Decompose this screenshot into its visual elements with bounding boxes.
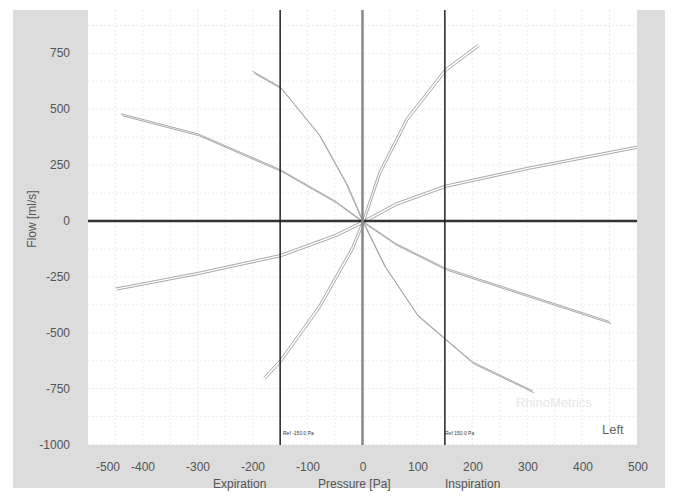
flow-curve [117,223,364,290]
flow-curve [121,114,363,221]
flow-curve [254,73,364,223]
y-axis-label: Flow [ml/s] [25,179,39,259]
x-tick: -200 [228,460,278,474]
y-tick: -750 [0,382,70,396]
x-tick: 100 [393,460,443,474]
y-tick: -1000 [0,438,70,452]
x-tick: 0 [338,460,388,474]
x-tick: -400 [118,460,168,474]
flow-curve [264,221,363,377]
curves-svg [88,10,637,445]
flow-curve [122,116,364,223]
x-tick: 400 [558,460,608,474]
x-sublabel-expiration: Expiration [213,477,266,491]
ref-label-negative: Ref -150.0 Pa [283,430,314,436]
flow-curve [115,221,362,288]
x-tick: -300 [173,460,223,474]
x-tick: 300 [503,460,553,474]
y-tick: 250 [0,158,70,172]
x-tick: -100 [283,460,333,474]
watermark: RhinoMetrics [516,395,592,410]
x-tick: 200 [448,460,498,474]
y-tick: 500 [0,102,70,116]
x-axis-label: Pressure [Pa] [318,477,391,491]
flow-curve [364,223,611,324]
flow-curve [364,148,637,223]
side-label: Left [602,422,624,437]
ref-label-positive: Ref 150.0 Pa [445,430,474,436]
flow-curve [363,221,610,322]
x-tick: 500 [613,460,663,474]
flow-curve [363,221,533,391]
y-tick: -250 [0,270,70,284]
y-tick: 750 [0,46,70,60]
plot-area [88,10,637,445]
y-tick: -500 [0,326,70,340]
x-sublabel-inspiration: Inspiration [445,477,500,491]
